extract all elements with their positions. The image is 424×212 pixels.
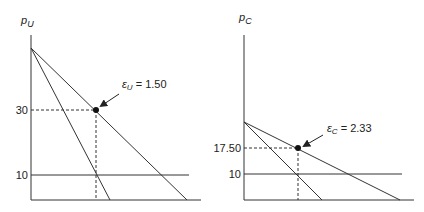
- right-point: [295, 145, 301, 151]
- right-y-axis-label: pC: [238, 11, 252, 26]
- left-arrow-icon: [101, 94, 119, 106]
- left-y-axis-label: pU: [20, 14, 34, 29]
- left-point: [93, 107, 99, 113]
- right-tick-10: 10: [229, 168, 241, 180]
- right-panel: pC 17.50 10 εC = 2.33: [213, 11, 414, 200]
- right-arrow-icon: [304, 135, 323, 146]
- right-tick-17-50: 17.50: [213, 142, 241, 154]
- left-elasticity-label: εU = 1.50: [122, 78, 167, 92]
- left-tick-10: 10: [16, 169, 28, 181]
- right-flat-line: [244, 122, 400, 200]
- left-steep-line: [31, 48, 110, 200]
- right-elasticity-label: εC = 2.33: [327, 122, 372, 136]
- diagram-canvas: pU 30 10 εU = 1.50 pC 17.50 10 εC = 2.33: [0, 0, 424, 212]
- left-tick-30: 30: [16, 104, 28, 116]
- left-flat-line: [31, 48, 187, 200]
- right-steep-line: [244, 122, 322, 200]
- left-panel: pU 30 10 εU = 1.50: [16, 14, 201, 200]
